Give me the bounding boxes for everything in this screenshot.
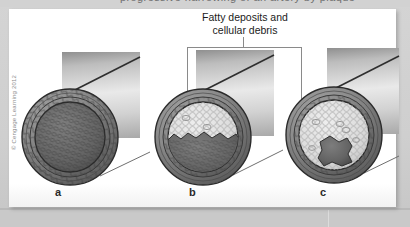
page-band-vertical-divider [328, 210, 329, 227]
panel-label-a: a [55, 186, 61, 198]
cut-off-caption-text: progressive narrowing of an artery by pl… [120, 0, 355, 3]
panel-label-b: b [189, 186, 196, 198]
caption-line-1: Fatty deposits and [145, 11, 345, 24]
page-lower-band [0, 208, 410, 227]
leader-line-to-vessel-c [301, 47, 302, 125]
page-band-divider-line [0, 208, 410, 210]
leader-line-to-vessel-b [187, 47, 188, 122]
tube-body-c [327, 48, 399, 134]
cut-off-text-sliver: progressive narrowing of an artery by pl… [0, 0, 410, 7]
panel-label-c: c [320, 186, 326, 198]
tube-body-b [196, 50, 274, 136]
vessel-tube-c [327, 48, 399, 134]
tube-body-a [62, 52, 140, 138]
vessel-tube-b [196, 50, 274, 136]
vessel-tube-a [62, 52, 140, 138]
caption-line-2: cellular debris [145, 24, 345, 37]
copyright-credit: © Cengage Learning 2012 [11, 75, 17, 150]
leader-bracket-bar [187, 47, 302, 48]
figure-caption: Fatty deposits and cellular debris [145, 11, 345, 36]
